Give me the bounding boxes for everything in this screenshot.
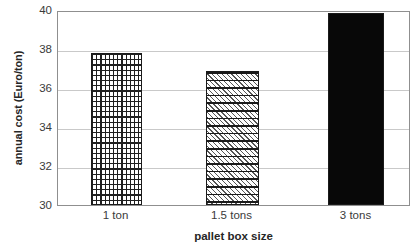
y-tick-label-36: 36 [26, 83, 52, 95]
x-tick-label-3-tons: 3 tons [315, 210, 396, 222]
bar-1-ton [91, 53, 142, 205]
x-tick-label-1-ton: 1 ton [75, 210, 156, 222]
x-axis-tick-labels: 1 ton 1.5 tons 3 tons [57, 210, 410, 226]
bar-chart: annual cost (Euro/ton) 40 38 36 34 32 30… [0, 0, 415, 249]
bar-3-tons [328, 13, 384, 205]
x-axis-title: pallet box size [57, 230, 410, 242]
y-tick-label-40: 40 [26, 5, 52, 17]
x-tick-label-1-5-tons: 1.5 tons [191, 210, 272, 222]
plot-area [57, 11, 410, 206]
bar-1-5-tons [206, 71, 259, 206]
y-tick-label-38: 38 [26, 44, 52, 56]
y-axis-tick-labels: 40 38 36 34 32 30 [22, 0, 52, 249]
y-tick-label-34: 34 [26, 122, 52, 134]
y-tick-label-30: 30 [26, 200, 52, 212]
y-tick-label-32: 32 [26, 161, 52, 173]
